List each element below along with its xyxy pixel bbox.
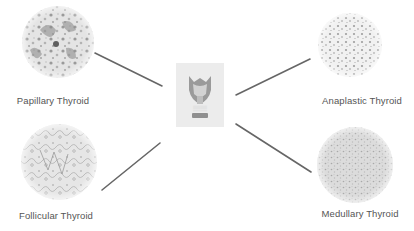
papillary-histology-image	[22, 6, 94, 78]
thyroid-cancer-types-diagram: ▒▒▒▒ Papillary Thyroid Anaplastic Thyroi…	[0, 0, 414, 231]
edge-papillary	[95, 53, 162, 86]
follicular-thyroid-label: Follicular Thyroid	[19, 210, 93, 221]
edge-medullary	[236, 124, 311, 172]
medullary-thyroid-label: Medullary Thyroid	[321, 208, 398, 219]
edge-anaplastic	[236, 59, 310, 95]
anaplastic-thyroid-label: Anaplastic Thyroid	[322, 95, 402, 106]
anaplastic-histology-image	[318, 13, 382, 77]
edge-follicular	[102, 143, 160, 190]
papillary-thyroid-label: Papillary Thyroid	[17, 95, 89, 106]
diagram-canvas: ▒▒▒▒	[0, 0, 414, 231]
thyroid-gland-icon: ▒▒▒▒	[176, 63, 224, 127]
follicular-histology-image	[21, 124, 97, 200]
svg-text:▒▒▒▒: ▒▒▒▒	[193, 105, 208, 112]
medullary-histology-image	[317, 127, 393, 203]
